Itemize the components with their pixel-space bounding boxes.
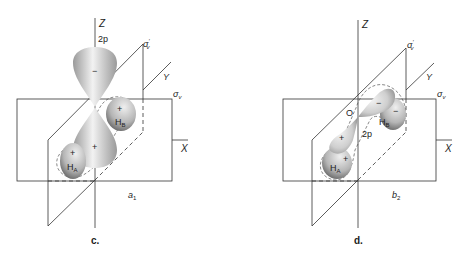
- sigma-v-label: σv: [437, 89, 446, 100]
- y-axis-label: Y: [426, 72, 433, 82]
- lobe-lower-sign: +: [92, 142, 97, 152]
- ha-sign: +: [70, 148, 75, 158]
- lobe-upper-sign: −: [92, 66, 97, 76]
- z-axis-label: Z: [361, 19, 369, 30]
- sigma-v-label: σv: [173, 89, 182, 100]
- hb-sign: −: [393, 106, 398, 116]
- x-axis-label: X: [180, 143, 188, 154]
- water-mo-diagram: − + + + HB HA Z 2p Y X σ′v σv a1 c.: [0, 0, 465, 259]
- lobe-lower-sign: +: [339, 133, 344, 143]
- sigma-v-prime-label: σ′v: [407, 39, 415, 51]
- y-axis-label: Y: [163, 72, 170, 82]
- sigma-v-plane: [283, 99, 436, 181]
- symmetry-label: a1: [128, 190, 137, 201]
- orbital-2p-label: 2p: [362, 129, 372, 139]
- symmetry-label: b2: [392, 190, 401, 201]
- panel-d: − + − + HB HA O 2p Z Y X σ′v σv b2 d.: [283, 19, 452, 246]
- panel-caption: c.: [91, 235, 100, 246]
- ha-sign: +: [343, 154, 348, 164]
- panel-caption: d.: [354, 235, 363, 246]
- origin-label: O: [346, 108, 353, 118]
- z-axis-label: Z: [98, 18, 106, 29]
- x-axis-label: X: [444, 143, 452, 154]
- panel-c: − + + + HB HA Z 2p Y X σ′v σv a1 c.: [17, 18, 188, 246]
- hb-sign: +: [117, 104, 122, 114]
- sigma-v-prime-label: σ′v: [143, 38, 151, 50]
- lobe-upper-sign: −: [376, 98, 381, 108]
- orbital-2p-label: 2p: [98, 34, 108, 44]
